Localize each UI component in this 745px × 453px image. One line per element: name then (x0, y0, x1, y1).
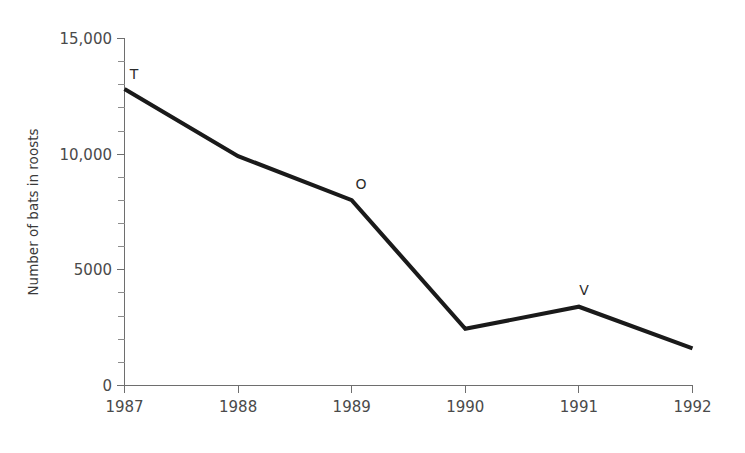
y-tick-label-5000: 5000 (74, 261, 112, 279)
annotation-label-t: T (129, 66, 139, 82)
y-tick-label-15000: 15,000 (60, 30, 113, 48)
x-tick-label-1987: 1987 (105, 398, 143, 416)
y-tick-label-0: 0 (102, 377, 112, 395)
x-tick-label-1989: 1989 (333, 398, 371, 416)
annotation-label-o: O (355, 176, 366, 192)
x-tick-label-1990: 1990 (446, 398, 484, 416)
x-tick-label-1992: 1992 (673, 398, 711, 416)
annotation-label-v: V (579, 282, 589, 298)
chart-figure: 15,000 10,000 5000 0 Number of bats in r… (0, 0, 745, 453)
x-tick-label-1988: 1988 (219, 398, 257, 416)
line-chart-canvas: 15,000 10,000 5000 0 Number of bats in r… (0, 0, 745, 453)
y-tick-label-10000: 10,000 (60, 146, 113, 164)
y-axis-title: Number of bats in roosts (25, 128, 41, 295)
x-tick-label-1991: 1991 (560, 398, 598, 416)
